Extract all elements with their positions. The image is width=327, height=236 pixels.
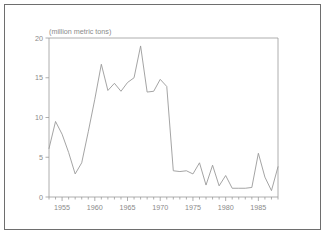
y-tick-label: 5 xyxy=(39,153,43,162)
figure-frame: (million metric tons) 05101520 195519601… xyxy=(4,4,321,230)
unit-title: (million metric tons) xyxy=(49,27,111,36)
x-tick-label: 1970 xyxy=(152,203,168,212)
unit-title-text: (million metric tons) xyxy=(49,27,111,36)
x-tick-label: 1955 xyxy=(54,203,70,212)
x-axis: 1955196019651970197519801985 xyxy=(49,197,278,212)
y-axis: 05101520 xyxy=(35,34,49,202)
series-production-line xyxy=(49,46,278,191)
plot-frame xyxy=(49,38,278,197)
chart-area: (million metric tons) 05101520 195519601… xyxy=(5,5,322,231)
line-chart: (million metric tons) 05101520 195519601… xyxy=(5,5,322,231)
x-tick-label: 1985 xyxy=(250,203,266,212)
y-tick-label: 20 xyxy=(35,34,43,43)
x-tick-label: 1960 xyxy=(87,203,103,212)
y-tick-label: 0 xyxy=(39,193,43,202)
x-tick-label: 1975 xyxy=(185,203,201,212)
data-series-line xyxy=(49,46,278,191)
x-tick-label: 1965 xyxy=(120,203,136,212)
y-tick-label: 10 xyxy=(35,113,43,122)
y-tick-label: 15 xyxy=(35,73,43,82)
x-tick-label: 1980 xyxy=(218,203,234,212)
plot-border xyxy=(49,38,278,197)
